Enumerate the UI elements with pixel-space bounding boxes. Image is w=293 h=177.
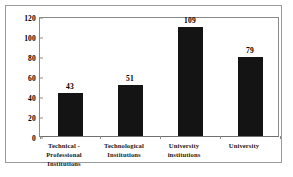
bar-value-label: 43 — [66, 82, 74, 91]
y-axis-tick-label: 100 — [24, 34, 40, 43]
bar: 79 — [238, 57, 263, 136]
figure-outer-frame: 020406080100120 435110979 Technical -Pro… — [5, 5, 282, 163]
category-label-line: Professional — [34, 150, 94, 159]
bar-chart-figure: 020406080100120 435110979 Technical -Pro… — [0, 0, 293, 177]
x-axis-tick-mark — [280, 136, 281, 139]
bar: 43 — [58, 93, 83, 136]
bar: 109 — [178, 27, 203, 136]
y-axis-tick-mark — [40, 98, 43, 99]
bar-value-label: 109 — [184, 16, 196, 25]
x-axis-category-label: Technical -ProfessionalInstitutions — [34, 141, 94, 169]
y-axis-tick-label: 80 — [28, 54, 40, 63]
plot-area: 020406080100120 435110979 — [39, 17, 279, 137]
category-label-line: Technical - — [34, 141, 94, 150]
x-axis-tick-mark — [100, 136, 101, 139]
category-label-line: University — [154, 141, 214, 150]
y-axis-tick-label: 40 — [28, 94, 40, 103]
category-label-line: Institutions — [34, 159, 94, 168]
y-axis-tick-mark — [40, 78, 43, 79]
x-axis-category-label: TechnologicalInstitutions — [94, 141, 154, 159]
bar-value-label: 51 — [126, 74, 134, 83]
y-axis-tick-mark — [40, 38, 43, 39]
x-axis-category-label: University — [214, 141, 274, 150]
y-axis-tick-label: 120 — [24, 14, 40, 23]
category-label-line: institutions — [154, 150, 214, 159]
category-label-line: University — [214, 141, 274, 150]
y-axis-tick-mark — [40, 118, 43, 119]
y-axis-tick-label: 60 — [28, 74, 40, 83]
category-label-line: Technological — [94, 141, 154, 150]
y-axis-tick-mark — [40, 58, 43, 59]
x-axis-tick-mark — [40, 136, 41, 139]
x-axis-category-label: Universityinstitutions — [154, 141, 214, 159]
y-axis-tick-label: 20 — [28, 114, 40, 123]
bar: 51 — [118, 85, 143, 136]
category-label-line: Institutions — [94, 150, 154, 159]
x-axis-tick-mark — [220, 136, 221, 139]
bar-value-label: 79 — [246, 46, 254, 55]
x-axis-tick-mark — [160, 136, 161, 139]
y-axis-tick-mark — [40, 18, 43, 19]
